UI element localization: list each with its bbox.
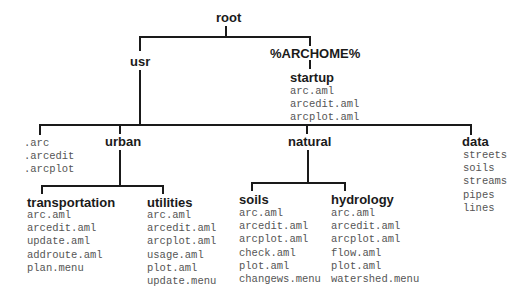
transportation-file-list: arc.aml arcedit.aml update.aml addroute.… bbox=[27, 209, 103, 275]
file-item: arc.aml bbox=[147, 209, 216, 222]
connector-archome-down bbox=[309, 60, 311, 69]
node-soils: soils bbox=[239, 193, 269, 207]
file-item: soils bbox=[463, 162, 507, 175]
connector-to-natural bbox=[306, 124, 308, 134]
file-item: arc.aml bbox=[331, 207, 419, 220]
file-item: arcedit.aml bbox=[27, 222, 103, 235]
file-item: pipes bbox=[463, 189, 507, 202]
file-item: .arc bbox=[24, 137, 74, 150]
node-utilities: utilities bbox=[147, 196, 193, 210]
file-item: arcedit.aml bbox=[147, 222, 216, 235]
connector-natural-branch bbox=[251, 182, 346, 184]
soils-file-list: arc.aml arcedit.aml arcplot.aml check.am… bbox=[239, 207, 321, 286]
connector-to-utilities bbox=[162, 185, 164, 194]
node-archome: %ARCHOME% bbox=[270, 47, 360, 61]
connector-to-soils bbox=[251, 182, 253, 191]
file-item: .arcedit bbox=[24, 150, 74, 163]
file-item: watershed.menu bbox=[331, 273, 419, 286]
node-usr: usr bbox=[130, 55, 150, 69]
connector-to-usr-files bbox=[39, 124, 41, 135]
connector-to-hydrology bbox=[344, 182, 346, 191]
file-item: streets bbox=[463, 149, 507, 162]
node-transportation: transportation bbox=[27, 196, 115, 210]
file-item: plot.aml bbox=[239, 260, 321, 273]
hydrology-file-list: arc.aml arcedit.aml arcplot.aml flow.aml… bbox=[331, 207, 419, 286]
node-natural: natural bbox=[288, 135, 331, 149]
file-item: plot.aml bbox=[331, 260, 419, 273]
file-item: lines bbox=[463, 202, 507, 215]
file-item: arcplot.aml bbox=[290, 111, 359, 124]
file-item: arcplot.aml bbox=[331, 233, 419, 246]
connector-usr-down bbox=[139, 70, 141, 125]
utilities-file-list: arc.aml arcedit.aml arcplot.aml usage.am… bbox=[147, 209, 216, 288]
file-item: .arcplot bbox=[24, 163, 74, 176]
connector-to-transportation bbox=[41, 185, 43, 194]
node-hydrology: hydrology bbox=[331, 193, 394, 207]
connector-usr-branch bbox=[39, 124, 472, 126]
file-item: arcedit.aml bbox=[290, 98, 359, 111]
node-startup: startup bbox=[290, 71, 334, 85]
connector-root-branch bbox=[139, 36, 311, 38]
file-item: arc.aml bbox=[239, 207, 321, 220]
node-root: root bbox=[216, 11, 241, 25]
node-urban: urban bbox=[105, 135, 141, 149]
file-item: usage.aml bbox=[147, 249, 216, 262]
file-item: arcedit.aml bbox=[239, 220, 321, 233]
file-item: streams bbox=[463, 175, 507, 188]
file-item: arc.aml bbox=[27, 209, 103, 222]
file-item: update.aml bbox=[27, 235, 103, 248]
node-data: data bbox=[462, 135, 489, 149]
file-item: arcplot.aml bbox=[239, 233, 321, 246]
file-item: update.menu bbox=[147, 275, 216, 288]
usr-file-list: .arc .arcedit .arcplot bbox=[24, 137, 74, 177]
file-item: arcplot.aml bbox=[147, 235, 216, 248]
connector-urban-branch bbox=[41, 185, 164, 187]
file-item: flow.aml bbox=[331, 247, 419, 260]
file-item: plot.aml bbox=[147, 262, 216, 275]
connector-to-usr bbox=[139, 36, 141, 51]
file-item: check.aml bbox=[239, 247, 321, 260]
startup-file-list: arc.aml arcedit.aml arcplot.aml bbox=[290, 85, 359, 125]
file-item: addroute.aml bbox=[27, 249, 103, 262]
data-file-list: streets soils streams pipes lines bbox=[463, 149, 507, 215]
connector-to-archome bbox=[309, 36, 311, 46]
file-item: arcedit.aml bbox=[331, 220, 419, 233]
file-item: changews.menu bbox=[239, 273, 321, 286]
connector-to-urban bbox=[119, 124, 121, 134]
connector-natural-down bbox=[307, 150, 309, 184]
file-item: arc.aml bbox=[290, 85, 359, 98]
file-item: plan.menu bbox=[27, 262, 103, 275]
connector-urban-down bbox=[119, 150, 121, 187]
